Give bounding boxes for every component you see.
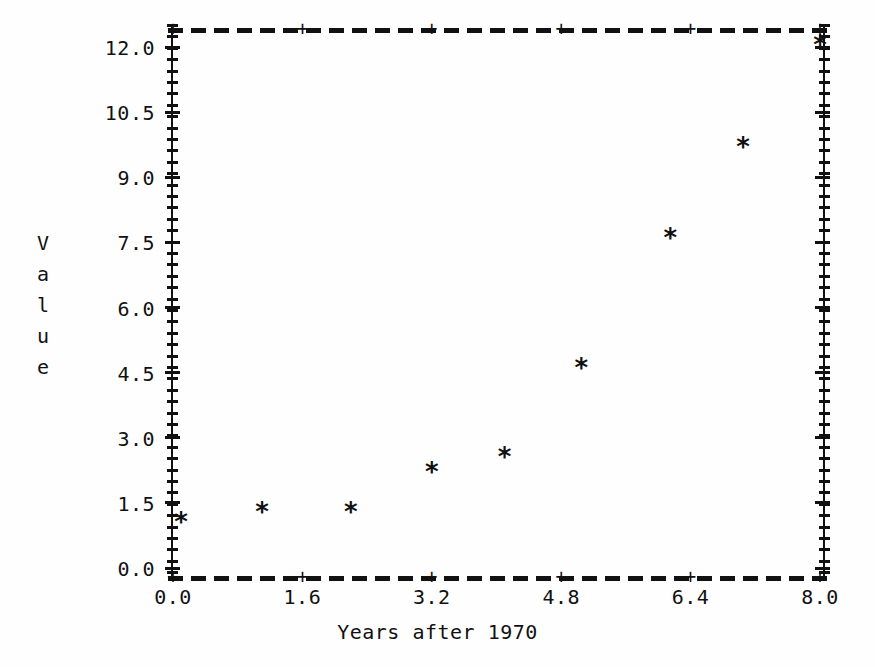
x-axis-tick-label: 0.0	[154, 585, 192, 609]
x-axis-tick-label: 8.0	[801, 585, 839, 609]
scatter-point-marker: *	[341, 501, 361, 523]
y-axis-major-tick	[165, 567, 180, 570]
x-axis-plus-mark-bottom: +	[167, 569, 180, 584]
scatter-point-marker: *	[810, 34, 830, 56]
y-axis-major-tick	[165, 306, 180, 309]
y-axis-major-tick	[815, 241, 830, 244]
y-axis-spine-left	[167, 24, 178, 580]
x-axis-tick-label: 1.6	[284, 585, 322, 609]
y-axis-major-tick	[815, 567, 830, 570]
x-axis-tick-label: 3.2	[413, 585, 451, 609]
y-axis-major-tick	[165, 176, 180, 179]
y-axis-tick-label: 10.5	[0, 101, 155, 125]
y-axis-major-tick	[165, 436, 180, 439]
x-axis-plus-mark-bottom: +	[555, 569, 568, 584]
y-axis-major-tick	[165, 241, 180, 244]
scatter-point-marker: *	[571, 357, 591, 379]
top-frame-dashed-line	[168, 28, 828, 33]
y-axis-tick-label: 9.0	[0, 166, 155, 190]
scatter-point-marker: *	[495, 446, 515, 468]
chart-page: ++++++ ++++++ 0.01.53.04.56.07.59.010.51…	[0, 0, 875, 667]
x-axis-plus-mark-bottom: +	[684, 569, 697, 584]
y-axis-title: Value	[30, 228, 56, 383]
y-axis-major-tick	[165, 111, 180, 114]
y-axis-title-char: V	[30, 228, 56, 259]
y-axis-title-char: e	[30, 352, 56, 383]
scatter-point-marker: *	[252, 501, 272, 523]
y-axis-major-tick	[165, 46, 180, 49]
y-axis-major-tick	[815, 111, 830, 114]
x-axis-plus-mark-top: +	[425, 21, 438, 36]
x-axis-title: Years after 1970	[0, 620, 875, 644]
x-axis-tick-label: 4.8	[542, 585, 580, 609]
y-axis-tick-label: 1.5	[0, 492, 155, 516]
scatter-point-marker: *	[171, 511, 191, 533]
y-axis-tick-label: 6.0	[0, 297, 155, 321]
y-axis-spine-right	[819, 24, 830, 580]
y-axis-tick-label: 12.0	[0, 36, 155, 60]
y-axis-major-tick	[815, 176, 830, 179]
x-axis-plus-mark-top: +	[296, 21, 309, 36]
y-axis-tick-label: 4.5	[0, 362, 155, 386]
y-axis-major-tick	[165, 501, 180, 504]
y-axis-major-tick	[815, 436, 830, 439]
scatter-point-marker: *	[660, 227, 680, 249]
x-axis-plus-mark-bottom: +	[296, 569, 309, 584]
y-axis-tick-label: 0.0	[0, 557, 155, 581]
y-axis-major-tick	[815, 306, 830, 309]
x-axis-plus-mark-bottom: +	[814, 569, 827, 584]
x-axis-plus-mark-top: +	[684, 21, 697, 36]
x-axis-tick-label: 6.4	[672, 585, 710, 609]
y-axis-major-tick	[165, 371, 180, 374]
x-axis-plus-mark-top: +	[555, 21, 568, 36]
scatter-point-marker: *	[422, 461, 442, 483]
bottom-frame-dashed-line	[168, 576, 828, 581]
x-axis-plus-mark-bottom: +	[425, 569, 438, 584]
y-axis-major-tick	[815, 371, 830, 374]
y-axis-tick-label: 7.5	[0, 231, 155, 255]
y-axis-tick-label: 3.0	[0, 427, 155, 451]
x-axis-plus-mark-top: +	[167, 21, 180, 36]
y-axis-major-tick	[815, 501, 830, 504]
scatter-point-marker: *	[733, 136, 753, 158]
y-axis-title-char: u	[30, 321, 56, 352]
y-axis-title-char: l	[30, 290, 56, 321]
y-axis-title-char: a	[30, 259, 56, 290]
